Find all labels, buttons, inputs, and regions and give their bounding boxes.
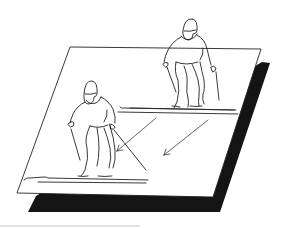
ski-illustration [0,0,284,228]
